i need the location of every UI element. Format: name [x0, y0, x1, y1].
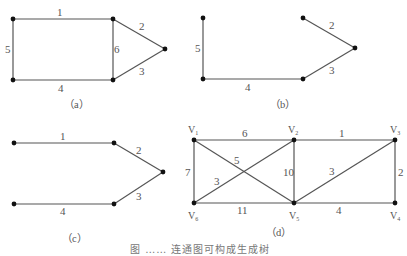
edge-v5-v3: [294, 140, 395, 203]
node: [111, 17, 116, 22]
vertex-label-v2: V2: [288, 124, 298, 136]
node: [301, 16, 306, 21]
node: [201, 16, 206, 21]
subfigure-c: 1 2 3 4 （c）: [12, 130, 166, 244]
node: [11, 17, 16, 22]
node: [11, 78, 16, 83]
edge-weight: 2: [398, 166, 404, 178]
edge-weight: 4: [60, 205, 66, 217]
edge-weight: 2: [329, 19, 335, 31]
edge-weight: 10: [283, 166, 295, 178]
vertex-label-v5: V5: [289, 210, 299, 222]
subfigure-label: （b）: [270, 99, 295, 110]
edge-weight: 4: [336, 204, 342, 216]
subfigure-b: 2 3 4 5 （b）: [195, 16, 357, 110]
node: [163, 47, 168, 52]
node-v2: [292, 138, 297, 143]
edge-weight: 5: [195, 42, 201, 54]
vertex-label-v1: V1: [188, 124, 198, 136]
edge-weight: 5: [5, 43, 11, 55]
node-v4: [393, 201, 398, 206]
subfigure-a: 1 2 3 4 5 6 （a）: [5, 6, 167, 110]
vertex-label-v4: V4: [390, 210, 400, 222]
edge-weight: 7: [185, 166, 191, 178]
edge-weight: 3: [136, 190, 142, 202]
edge-weight: 5: [234, 154, 240, 166]
node: [112, 202, 117, 207]
node-v5: [292, 201, 297, 206]
node: [301, 77, 306, 82]
node-v6: [192, 201, 197, 206]
node: [112, 141, 117, 146]
subfigure-d: 6 1 2 3 4 5 3 7 10 11 V1 V2 V3 V4 V5 V6 …: [185, 124, 404, 238]
vertex-label-v3: V3: [390, 124, 400, 136]
node: [12, 202, 17, 207]
node: [111, 78, 116, 83]
node: [353, 46, 358, 51]
node-v3: [393, 138, 398, 143]
edge-weight: 3: [214, 175, 220, 187]
node: [201, 77, 206, 82]
edge-weight: 1: [57, 6, 63, 18]
node: [12, 141, 17, 146]
edge-weight: 2: [139, 20, 145, 32]
node: [161, 170, 166, 175]
edge-weight: 3: [329, 64, 335, 76]
edge-weight: 6: [114, 43, 120, 55]
edge-weight: 6: [242, 127, 248, 139]
edge-weight: 3: [139, 65, 145, 77]
edge-weight: 4: [245, 81, 251, 93]
edge-weight: 4: [58, 82, 64, 94]
edge-weight: 11: [237, 204, 248, 216]
edge-weight: 2: [136, 144, 142, 156]
subfigure-label: （d）: [266, 227, 291, 238]
figure-caption: 图 …… 连通图可构成生成树: [130, 241, 270, 256]
subfigure-label: （a）: [64, 99, 89, 110]
edge-weight: 3: [329, 165, 335, 177]
vertex-label-v6: V6: [188, 210, 198, 222]
node-v1: [192, 138, 197, 143]
edge-weight: 1: [339, 127, 345, 139]
edge-weight: 1: [60, 130, 66, 142]
subfigure-label: （c）: [62, 233, 87, 244]
